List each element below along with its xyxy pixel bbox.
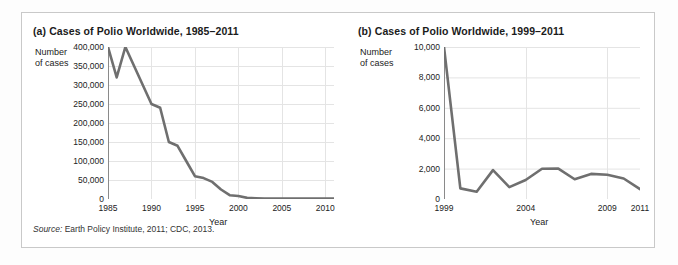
chart-a-y-tick: 200,000: [73, 118, 104, 128]
chart-b-x-tick: 2009: [598, 203, 617, 213]
figure-panel: (a) Cases of Polio Worldwide, 1985–2011 …: [21, 12, 655, 248]
source-value: Earth Policy Institute, 2011; CDC, 2013.: [65, 224, 215, 234]
chart-a-x-tick: 1995: [185, 203, 204, 213]
chart-a-y-tick: 300,000: [73, 80, 104, 90]
chart-a-plot-area: 050,000100,000150,000200,000250,000300,0…: [108, 47, 334, 199]
chart-b-title: (b) Cases of Polio Worldwide, 1999–2011: [358, 25, 564, 37]
chart-a-title: (a) Cases of Polio Worldwide, 1985–2011: [33, 25, 239, 37]
chart-b-block: (b) Cases of Polio Worldwide, 1999–2011 …: [352, 13, 656, 247]
chart-a-x-tick: 2010: [316, 203, 335, 213]
chart-b-y-axis-title-line2: of cases: [360, 58, 394, 69]
chart-b-y-tick: 4,000: [419, 133, 440, 143]
chart-a-canvas: [108, 47, 334, 199]
chart-a-x-tick: 2000: [229, 203, 248, 213]
source-note: Source: Earth Policy Institute, 2011; CD…: [33, 224, 214, 234]
chart-b-plot-area: 02,0004,0006,0008,00010,000 199920042009…: [444, 47, 640, 199]
chart-a-y-axis-title-line1: Number: [35, 47, 69, 58]
chart-a-x-tick: 1985: [99, 203, 118, 213]
chart-a-y-tick: 150,000: [73, 137, 104, 147]
chart-a-block: (a) Cases of Polio Worldwide, 1985–2011 …: [22, 13, 352, 247]
chart-a-y-axis-title: Number of cases: [35, 47, 69, 69]
chart-a-x-tick: 2005: [272, 203, 291, 213]
chart-b-canvas: [444, 47, 640, 199]
chart-a-y-axis-title-line2: of cases: [35, 58, 69, 69]
chart-b-x-axis-title: Year: [530, 217, 548, 227]
figure-root: (a) Cases of Polio Worldwide, 1985–2011 …: [0, 0, 678, 265]
chart-a-y-tick: 400,000: [73, 42, 104, 52]
chart-b-y-tick: 2,000: [419, 164, 440, 174]
chart-b-x-tick: 1999: [435, 203, 454, 213]
chart-b-y-tick: 10,000: [414, 42, 440, 52]
chart-b-y-tick: 8,000: [419, 72, 440, 82]
source-label: Source:: [33, 224, 62, 234]
chart-b-y-tick: 6,000: [419, 103, 440, 113]
chart-b-y-axis-title: Number of cases: [360, 47, 394, 69]
chart-a-y-tick: 100,000: [73, 156, 104, 166]
chart-b-x-tick: 2011: [631, 203, 649, 213]
chart-b-y-axis-title-line1: Number: [360, 47, 394, 58]
chart-a-x-tick: 1990: [142, 203, 161, 213]
chart-a-y-tick: 350,000: [73, 61, 104, 71]
chart-a-y-tick: 50,000: [78, 175, 104, 185]
chart-a-y-tick: 250,000: [73, 99, 104, 109]
chart-b-x-tick: 2004: [516, 203, 535, 213]
